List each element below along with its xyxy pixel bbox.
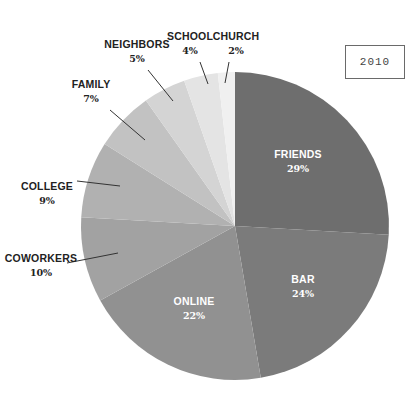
slice-percent-friends: 29% [287, 163, 309, 174]
slice-label-church: CHURCH [213, 30, 260, 42]
year-badge: 2010 [345, 45, 405, 79]
slice-bar [235, 226, 389, 378]
slice-label-family: FAMILY [72, 78, 111, 90]
slice-label-school: SCHOOL [167, 30, 214, 42]
year-label: 2010 [360, 56, 390, 68]
slice-percent-church: 2% [228, 45, 244, 56]
slice-label-college: COLLEGE [21, 180, 73, 192]
slice-label-online: ONLINE [174, 295, 215, 307]
slice-percent-family: 7% [83, 93, 99, 104]
slice-label-bar: BAR [291, 273, 315, 285]
slice-label-friends: FRIENDS [274, 148, 322, 160]
slice-percent-neighbors: 5% [129, 53, 145, 64]
pie-slices [81, 72, 389, 380]
slice-label-neighbors: NEIGHBORS [104, 38, 169, 50]
slice-percent-online: 22% [183, 310, 205, 321]
slice-percent-coworkers: 10% [30, 267, 52, 278]
slice-percent-bar: 24% [292, 288, 314, 299]
slice-percent-school: 4% [182, 45, 198, 56]
slice-label-coworkers: COWORKERS [5, 252, 77, 264]
slice-percent-college: 9% [39, 195, 55, 206]
